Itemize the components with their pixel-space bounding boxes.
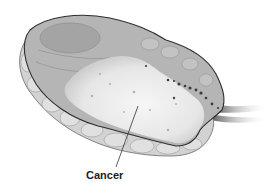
cancer-label: Cancer <box>86 169 123 181</box>
gland-region <box>40 23 100 53</box>
organ-cross-section-illustration <box>0 0 272 196</box>
cut-surface <box>24 15 224 146</box>
illustration: Cancer <box>0 0 272 196</box>
